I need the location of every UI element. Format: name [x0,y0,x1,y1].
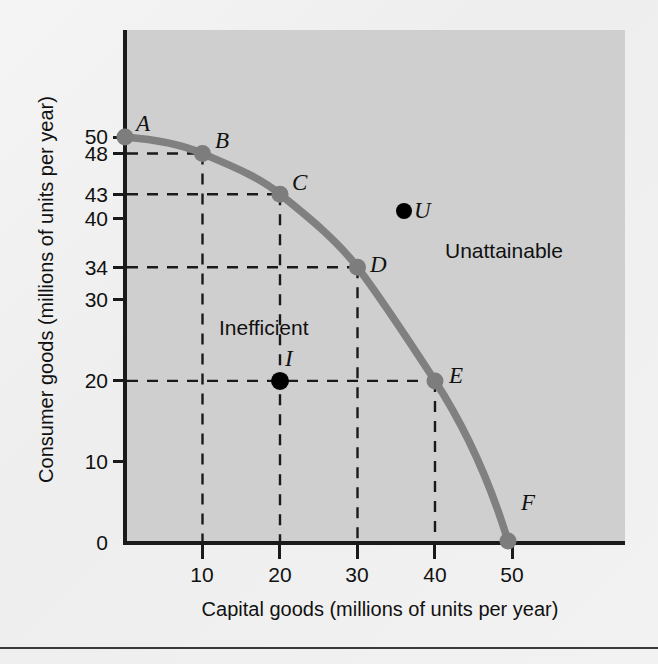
y-tick-34 [113,266,127,269]
x-tick-label-10: 10 [179,563,225,587]
x-tick-40 [433,545,436,559]
y-tick-10 [113,460,127,463]
y-tick-label-20: 20 [85,369,108,393]
y-tick-20 [113,379,127,382]
x-tick-label-40: 40 [412,563,458,587]
x-tick-label-50: 50 [489,563,535,587]
x-tick-30 [356,545,359,559]
ppf-figure: 50 48 43 40 34 30 20 10 0 10 20 30 40 50 [0,0,658,664]
y-tick-label-34: 34 [85,256,108,280]
y-axis-title: Consumer goods (millions of units per ye… [35,30,58,550]
x-axis-line [123,541,625,545]
point-label-a: A [136,111,150,137]
x-tick-50 [511,545,514,559]
x-axis-title: Capital goods (millions of units per yea… [125,598,635,621]
y-tick-label-43: 43 [85,183,108,207]
y-tick-43 [113,193,127,196]
bottom-divider [0,647,658,649]
region-label-inefficient: Inefficient [219,316,309,340]
y-tick-label-30: 30 [85,288,108,312]
x-tick-10 [201,545,204,559]
y-tick-48 [113,152,127,155]
point-label-i: I [285,346,293,372]
y-tick-label-0: 0 [96,531,108,555]
point-label-c: C [292,170,307,196]
x-tick-label-20: 20 [257,563,303,587]
y-tick-40 [113,217,127,220]
x-tick-20 [278,545,281,559]
y-tick-30 [113,298,127,301]
x-tick-label-30: 30 [334,563,380,587]
point-label-d: D [370,252,387,278]
point-label-u: U [414,198,431,224]
plot-area [125,30,625,543]
y-tick-50 [113,136,127,139]
point-label-f: F [521,490,535,516]
point-label-e: E [449,363,463,389]
y-tick-label-48: 48 [85,142,108,166]
y-axis-line [123,30,127,545]
y-tick-label-40: 40 [85,207,108,231]
region-label-unattainable: Unattainable [445,239,563,263]
point-label-b: B [215,128,229,154]
y-tick-label-10: 10 [85,450,108,474]
